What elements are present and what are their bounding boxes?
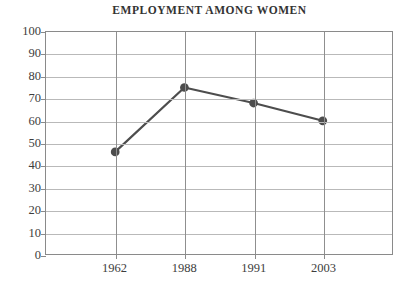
gridline-horizontal [46,211,392,212]
gridline-horizontal [46,77,392,78]
x-axis-tick-mark [255,254,256,259]
line-series: 1962: 461988: 751991: 682003: 60 [46,32,392,254]
y-axis-tick-label: 20 [0,204,41,217]
x-axis-tick-mark [185,254,186,259]
y-axis-tick-mark [41,32,46,33]
y-axis-tick-label: 40 [0,159,41,172]
chart-container: EMPLOYMENT AMONG WOMEN 01020304050607080… [0,0,419,285]
x-axis-tick-mark [116,254,117,259]
series-line [115,88,323,152]
y-axis-tick-label: 30 [0,182,41,195]
x-axis-tick-label: 1962 [102,262,127,275]
y-axis-tick-mark [41,99,46,100]
x-axis-tick-label: 1988 [172,262,197,275]
chart-title: EMPLOYMENT AMONG WOMEN [0,4,419,16]
y-axis-tick-mark [41,256,46,257]
y-axis-tick-label: 10 [0,226,41,239]
y-axis-tick-mark [41,189,46,190]
gridline-horizontal [46,234,392,235]
y-axis-tick-mark [41,211,46,212]
x-axis-tick-label: 1991 [241,262,266,275]
gridline-vertical [116,32,117,254]
y-axis-tick-mark [41,77,46,78]
y-axis-tick-mark [41,122,46,123]
gridline-horizontal [46,144,392,145]
gridline-horizontal [46,166,392,167]
x-axis: 1962198819912003 [45,262,393,282]
x-axis-tick-mark [324,254,325,259]
y-axis-tick-label: 70 [0,92,41,105]
gridline-horizontal [46,54,392,55]
y-axis-tick-label: 90 [0,47,41,60]
x-axis-tick-label: 2003 [311,262,336,275]
gridline-horizontal [46,99,392,100]
y-axis-tick-label: 50 [0,137,41,150]
gridline-vertical [324,32,325,254]
plot-area: 1962: 461988: 751991: 682003: 60 [45,31,393,255]
y-axis: 0102030405060708090100 [0,31,41,255]
y-axis-tick-mark [41,54,46,55]
y-axis-tick-label: 80 [0,70,41,83]
y-axis-tick-label: 0 [0,249,41,262]
gridline-vertical [255,32,256,254]
y-axis-tick-mark [41,166,46,167]
gridline-vertical [185,32,186,254]
y-axis-tick-label: 100 [0,25,41,38]
gridline-horizontal [46,122,392,123]
y-axis-tick-mark [41,144,46,145]
y-axis-tick-mark [41,234,46,235]
gridline-horizontal [46,189,392,190]
y-axis-tick-label: 60 [0,114,41,127]
